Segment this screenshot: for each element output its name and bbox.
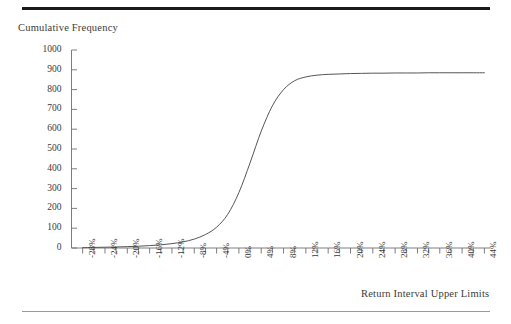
x-tick-label: 28% xyxy=(399,242,409,259)
x-tick-label: 16% xyxy=(332,242,342,259)
y-tick-label: 900 xyxy=(28,64,62,74)
y-tick-label: 100 xyxy=(28,222,62,232)
x-tick-label: -16% xyxy=(154,239,164,259)
x-tick-label: -12% xyxy=(176,239,186,259)
x-tick-label: -4% xyxy=(221,243,231,258)
y-tick-label: 500 xyxy=(28,143,62,153)
x-tick-label: -8% xyxy=(198,243,208,258)
x-tick-label: 8% xyxy=(288,246,298,258)
x-tick-label: 20% xyxy=(355,242,365,259)
y-tick-label: 700 xyxy=(28,103,62,113)
x-tick-label: 44% xyxy=(488,242,498,259)
x-tick-label: 40% xyxy=(466,242,476,259)
y-tick-label: 200 xyxy=(28,202,62,212)
x-tick-label: 24% xyxy=(377,242,387,259)
x-tick-label: 0% xyxy=(243,246,253,258)
x-tick-label: -24% xyxy=(109,239,119,259)
y-tick-label: 1000 xyxy=(28,44,62,54)
plot-area xyxy=(0,0,511,324)
y-tick-label: 300 xyxy=(28,183,62,193)
x-tick-label: 32% xyxy=(421,242,431,259)
x-tick-label: -20% xyxy=(131,239,141,259)
y-tick-label: 600 xyxy=(28,123,62,133)
y-tick-label: 800 xyxy=(28,84,62,94)
x-tick-label: 36% xyxy=(444,242,454,259)
cumulative-frequency-curve xyxy=(83,73,485,248)
y-tick-label: 400 xyxy=(28,163,62,173)
y-tick-label: 0 xyxy=(28,242,62,252)
figure-container: Cumulative Frequency Return Interval Upp… xyxy=(0,0,511,324)
x-tick-label: -28% xyxy=(87,239,97,259)
x-tick-label: 4% xyxy=(265,246,275,258)
x-tick-label: 12% xyxy=(310,242,320,259)
